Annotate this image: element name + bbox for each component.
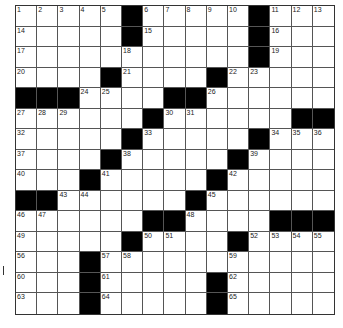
grid-cell[interactable] [292, 68, 313, 89]
grid-cell[interactable]: 39 [249, 150, 270, 171]
grid-cell[interactable]: 57 [101, 252, 122, 273]
grid-cell[interactable] [101, 232, 122, 253]
grid-cell[interactable] [228, 191, 249, 212]
grid-cell[interactable] [164, 170, 185, 191]
grid-cell[interactable]: 15 [143, 27, 164, 48]
grid-cell[interactable] [80, 129, 101, 150]
grid-cell[interactable]: 2 [37, 6, 58, 27]
grid-cell[interactable]: 17 [16, 47, 37, 68]
grid-cell[interactable]: 30 [164, 109, 185, 130]
grid-cell[interactable]: 19 [270, 47, 291, 68]
grid-cell[interactable]: 14 [16, 27, 37, 48]
grid-cell[interactable] [228, 27, 249, 48]
grid-cell[interactable]: 7 [164, 6, 185, 27]
grid-cell[interactable] [249, 191, 270, 212]
grid-cell[interactable] [313, 191, 334, 212]
grid-cell[interactable] [122, 293, 143, 314]
grid-cell[interactable] [164, 191, 185, 212]
grid-cell[interactable] [101, 109, 122, 130]
grid-cell[interactable] [186, 293, 207, 314]
grid-cell[interactable] [292, 191, 313, 212]
grid-cell[interactable] [292, 293, 313, 314]
grid-cell[interactable] [80, 211, 101, 232]
grid-cell[interactable] [80, 109, 101, 130]
grid-cell[interactable]: 41 [101, 170, 122, 191]
grid-cell[interactable] [164, 27, 185, 48]
grid-cell[interactable]: 31 [186, 109, 207, 130]
grid-cell[interactable] [292, 170, 313, 191]
grid-cell[interactable] [270, 150, 291, 171]
grid-cell[interactable] [37, 170, 58, 191]
grid-cell[interactable] [249, 109, 270, 130]
grid-cell[interactable] [249, 293, 270, 314]
grid-cell[interactable]: 48 [186, 211, 207, 232]
grid-cell[interactable] [249, 170, 270, 191]
grid-cell[interactable] [228, 109, 249, 130]
grid-cell[interactable] [313, 170, 334, 191]
grid-cell[interactable] [164, 47, 185, 68]
grid-cell[interactable] [122, 273, 143, 294]
grid-cell[interactable] [313, 47, 334, 68]
grid-cell[interactable] [207, 47, 228, 68]
grid-cell[interactable] [186, 252, 207, 273]
grid-cell[interactable] [292, 27, 313, 48]
grid-cell[interactable] [292, 150, 313, 171]
grid-cell[interactable]: 3 [58, 6, 79, 27]
grid-cell[interactable] [186, 27, 207, 48]
grid-cell[interactable] [292, 88, 313, 109]
grid-cell[interactable]: 8 [186, 6, 207, 27]
grid-cell[interactable]: 58 [122, 252, 143, 273]
grid-cell[interactable] [58, 232, 79, 253]
grid-cell[interactable]: 59 [228, 252, 249, 273]
grid-cell[interactable] [249, 88, 270, 109]
grid-cell[interactable] [313, 252, 334, 273]
grid-cell[interactable] [270, 191, 291, 212]
grid-cell[interactable] [186, 129, 207, 150]
grid-cell[interactable]: 52 [249, 232, 270, 253]
grid-cell[interactable] [143, 273, 164, 294]
grid-cell[interactable]: 38 [122, 150, 143, 171]
grid-cell[interactable] [270, 273, 291, 294]
grid-cell[interactable] [143, 191, 164, 212]
grid-cell[interactable] [207, 150, 228, 171]
grid-cell[interactable] [80, 27, 101, 48]
grid-cell[interactable] [58, 27, 79, 48]
grid-cell[interactable] [207, 211, 228, 232]
grid-cell[interactable] [58, 252, 79, 273]
grid-cell[interactable]: 33 [143, 129, 164, 150]
grid-cell[interactable] [164, 273, 185, 294]
grid-cell[interactable] [58, 293, 79, 314]
grid-cell[interactable] [164, 252, 185, 273]
grid-cell[interactable] [249, 211, 270, 232]
grid-cell[interactable]: 35 [292, 129, 313, 150]
grid-cell[interactable]: 37 [16, 150, 37, 171]
grid-cell[interactable] [292, 273, 313, 294]
grid-cell[interactable] [313, 273, 334, 294]
grid-cell[interactable] [270, 109, 291, 130]
grid-cell[interactable] [37, 252, 58, 273]
grid-cell[interactable] [122, 109, 143, 130]
grid-cell[interactable] [228, 88, 249, 109]
grid-cell[interactable] [37, 47, 58, 68]
grid-cell[interactable] [37, 27, 58, 48]
grid-cell[interactable] [37, 68, 58, 89]
grid-cell[interactable] [80, 232, 101, 253]
grid-cell[interactable] [186, 68, 207, 89]
grid-cell[interactable] [58, 170, 79, 191]
grid-cell[interactable] [186, 232, 207, 253]
grid-cell[interactable] [270, 293, 291, 314]
grid-cell[interactable]: 18 [122, 47, 143, 68]
grid-cell[interactable]: 55 [313, 232, 334, 253]
grid-cell[interactable]: 62 [228, 273, 249, 294]
grid-cell[interactable]: 51 [164, 232, 185, 253]
grid-cell[interactable] [228, 211, 249, 232]
grid-cell[interactable] [207, 129, 228, 150]
grid-cell[interactable]: 21 [122, 68, 143, 89]
grid-cell[interactable]: 60 [16, 273, 37, 294]
grid-cell[interactable] [122, 170, 143, 191]
grid-cell[interactable] [313, 293, 334, 314]
grid-cell[interactable] [313, 150, 334, 171]
grid-cell[interactable] [249, 273, 270, 294]
grid-cell[interactable]: 25 [101, 88, 122, 109]
grid-cell[interactable]: 27 [16, 109, 37, 130]
